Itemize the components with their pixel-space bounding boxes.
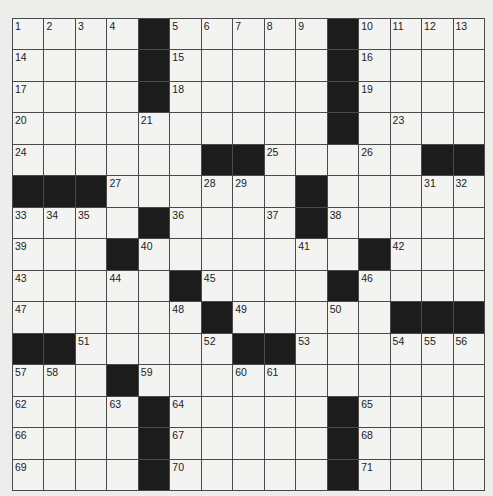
grid-cell[interactable] bbox=[107, 145, 137, 175]
grid-cell[interactable] bbox=[44, 397, 74, 427]
grid-cell[interactable]: 55 bbox=[422, 334, 452, 364]
grid-cell[interactable] bbox=[107, 50, 137, 80]
grid-cell[interactable] bbox=[202, 113, 232, 143]
grid-cell[interactable] bbox=[76, 271, 106, 301]
grid-cell[interactable] bbox=[44, 113, 74, 143]
grid-cell[interactable] bbox=[76, 239, 106, 269]
grid-cell[interactable]: 70 bbox=[170, 460, 200, 490]
grid-cell[interactable]: 32 bbox=[454, 176, 484, 206]
grid-cell[interactable]: 29 bbox=[233, 176, 263, 206]
grid-cell[interactable] bbox=[296, 145, 326, 175]
grid-cell[interactable] bbox=[391, 397, 421, 427]
grid-cell[interactable] bbox=[296, 82, 326, 112]
grid-cell[interactable]: 27 bbox=[107, 176, 137, 206]
grid-cell[interactable]: 5 bbox=[170, 19, 200, 49]
grid-cell[interactable] bbox=[233, 50, 263, 80]
grid-cell[interactable] bbox=[391, 460, 421, 490]
grid-cell[interactable] bbox=[296, 302, 326, 332]
grid-cell[interactable] bbox=[265, 82, 295, 112]
grid-cell[interactable]: 33 bbox=[13, 208, 43, 238]
grid-cell[interactable] bbox=[454, 365, 484, 395]
grid-cell[interactable] bbox=[233, 397, 263, 427]
grid-cell[interactable]: 19 bbox=[359, 82, 389, 112]
grid-cell[interactable]: 24 bbox=[13, 145, 43, 175]
grid-cell[interactable]: 34 bbox=[44, 208, 74, 238]
grid-cell[interactable]: 44 bbox=[107, 271, 137, 301]
grid-cell[interactable] bbox=[422, 428, 452, 458]
grid-cell[interactable] bbox=[202, 82, 232, 112]
grid-cell[interactable] bbox=[139, 145, 169, 175]
grid-cell[interactable] bbox=[170, 145, 200, 175]
grid-cell[interactable] bbox=[76, 145, 106, 175]
grid-cell[interactable] bbox=[265, 302, 295, 332]
grid-cell[interactable] bbox=[76, 397, 106, 427]
grid-cell[interactable]: 49 bbox=[233, 302, 263, 332]
grid-cell[interactable] bbox=[359, 334, 389, 364]
grid-cell[interactable] bbox=[296, 428, 326, 458]
grid-cell[interactable]: 21 bbox=[139, 113, 169, 143]
grid-cell[interactable] bbox=[107, 334, 137, 364]
grid-cell[interactable] bbox=[233, 428, 263, 458]
grid-cell[interactable] bbox=[44, 82, 74, 112]
grid-cell[interactable]: 37 bbox=[265, 208, 295, 238]
grid-cell[interactable]: 68 bbox=[359, 428, 389, 458]
grid-cell[interactable]: 51 bbox=[76, 334, 106, 364]
grid-cell[interactable]: 62 bbox=[13, 397, 43, 427]
grid-cell[interactable]: 7 bbox=[233, 19, 263, 49]
grid-cell[interactable] bbox=[422, 365, 452, 395]
grid-cell[interactable] bbox=[454, 428, 484, 458]
grid-cell[interactable]: 36 bbox=[170, 208, 200, 238]
grid-cell[interactable]: 48 bbox=[170, 302, 200, 332]
grid-cell[interactable] bbox=[170, 365, 200, 395]
grid-cell[interactable] bbox=[422, 397, 452, 427]
grid-cell[interactable] bbox=[391, 176, 421, 206]
grid-cell[interactable] bbox=[422, 113, 452, 143]
grid-cell[interactable] bbox=[202, 428, 232, 458]
grid-cell[interactable] bbox=[170, 176, 200, 206]
grid-cell[interactable] bbox=[422, 271, 452, 301]
grid-cell[interactable] bbox=[76, 113, 106, 143]
grid-cell[interactable]: 35 bbox=[76, 208, 106, 238]
grid-cell[interactable]: 45 bbox=[202, 271, 232, 301]
grid-cell[interactable] bbox=[265, 113, 295, 143]
grid-cell[interactable]: 20 bbox=[13, 113, 43, 143]
grid-cell[interactable]: 71 bbox=[359, 460, 389, 490]
grid-cell[interactable] bbox=[454, 113, 484, 143]
grid-cell[interactable] bbox=[233, 82, 263, 112]
grid-cell[interactable] bbox=[202, 397, 232, 427]
grid-cell[interactable]: 28 bbox=[202, 176, 232, 206]
grid-cell[interactable]: 25 bbox=[265, 145, 295, 175]
grid-cell[interactable]: 14 bbox=[13, 50, 43, 80]
grid-cell[interactable] bbox=[296, 397, 326, 427]
grid-cell[interactable]: 50 bbox=[328, 302, 358, 332]
grid-cell[interactable]: 42 bbox=[391, 239, 421, 269]
grid-cell[interactable] bbox=[391, 50, 421, 80]
grid-cell[interactable] bbox=[233, 460, 263, 490]
grid-cell[interactable]: 8 bbox=[265, 19, 295, 49]
grid-cell[interactable] bbox=[454, 397, 484, 427]
grid-cell[interactable] bbox=[107, 82, 137, 112]
grid-cell[interactable] bbox=[391, 428, 421, 458]
grid-cell[interactable] bbox=[296, 113, 326, 143]
grid-cell[interactable] bbox=[265, 239, 295, 269]
grid-cell[interactable]: 43 bbox=[13, 271, 43, 301]
grid-cell[interactable]: 60 bbox=[233, 365, 263, 395]
grid-cell[interactable]: 47 bbox=[13, 302, 43, 332]
grid-cell[interactable]: 31 bbox=[422, 176, 452, 206]
grid-cell[interactable] bbox=[454, 460, 484, 490]
grid-cell[interactable] bbox=[265, 397, 295, 427]
grid-cell[interactable]: 40 bbox=[139, 239, 169, 269]
grid-cell[interactable]: 4 bbox=[107, 19, 137, 49]
grid-cell[interactable] bbox=[422, 239, 452, 269]
grid-cell[interactable] bbox=[44, 428, 74, 458]
grid-cell[interactable]: 53 bbox=[296, 334, 326, 364]
grid-cell[interactable]: 61 bbox=[265, 365, 295, 395]
grid-cell[interactable] bbox=[422, 208, 452, 238]
grid-cell[interactable] bbox=[107, 208, 137, 238]
grid-cell[interactable] bbox=[44, 50, 74, 80]
grid-cell[interactable] bbox=[202, 208, 232, 238]
grid-cell[interactable]: 1 bbox=[13, 19, 43, 49]
grid-cell[interactable] bbox=[76, 302, 106, 332]
grid-cell[interactable] bbox=[76, 460, 106, 490]
grid-cell[interactable] bbox=[107, 302, 137, 332]
